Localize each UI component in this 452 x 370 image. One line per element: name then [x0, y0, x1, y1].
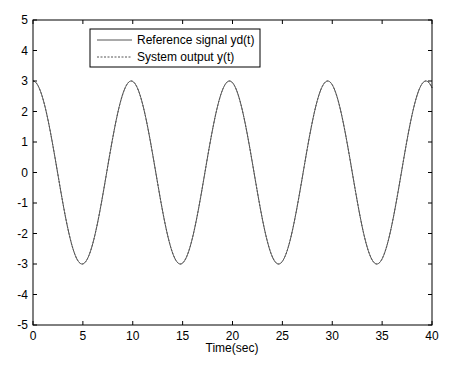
x-tick-label: 30 — [326, 329, 340, 343]
legend-label-reference: Reference signal yd(t) — [137, 33, 254, 47]
legend: Reference signal yd(t) System output y(t… — [90, 29, 260, 67]
x-tick-label: 15 — [176, 329, 190, 343]
x-tick-label: 35 — [375, 329, 389, 343]
y-tick-label: 5 — [21, 13, 28, 27]
x-axis-title: Time(sec) — [206, 341, 259, 355]
x-tick-label: 25 — [276, 329, 290, 343]
y-tick-label: 0 — [21, 166, 28, 180]
y-tick-label: -1 — [17, 196, 28, 210]
x-tick-label: 40 — [425, 329, 439, 343]
x-tick-label: 10 — [126, 329, 140, 343]
y-tick-label: 2 — [21, 105, 28, 119]
legend-label-output: System output y(t) — [137, 50, 234, 64]
line-chart: 0510152025303540-5-4-3-2-1012345 Time(se… — [0, 0, 452, 370]
y-tick-label: 3 — [21, 74, 28, 88]
y-tick-label: -5 — [17, 318, 28, 332]
y-tick-label: -4 — [17, 288, 28, 302]
y-tick-label: 4 — [21, 44, 28, 58]
system-output-line — [33, 81, 432, 264]
reference-signal-line — [33, 81, 432, 264]
x-tick-label: 5 — [80, 329, 87, 343]
x-tick-label: 0 — [30, 329, 37, 343]
y-tick-label: 1 — [21, 135, 28, 149]
series-layer — [33, 81, 432, 264]
y-tick-label: -3 — [17, 257, 28, 271]
y-tick-label: -2 — [17, 227, 28, 241]
